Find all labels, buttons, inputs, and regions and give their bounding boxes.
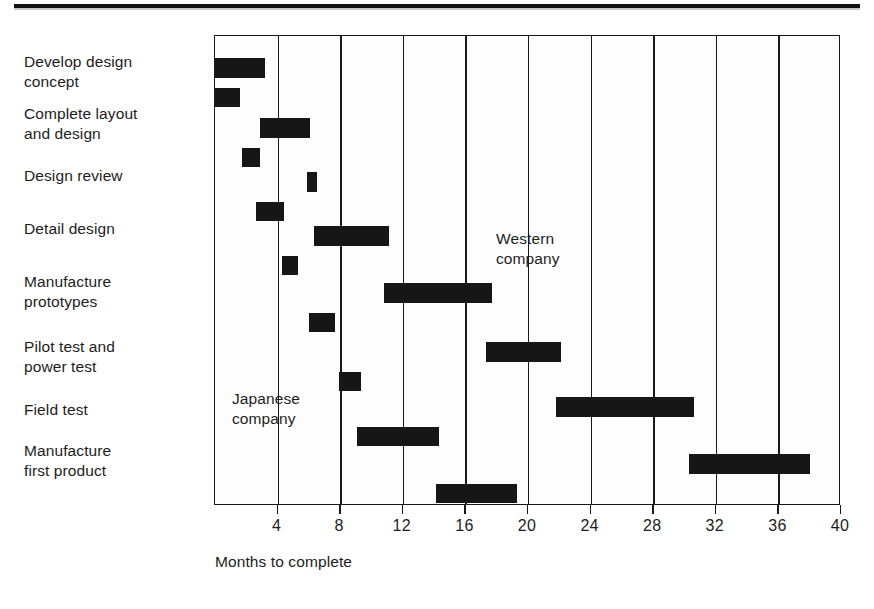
x-tick-mark-36: [777, 505, 778, 514]
row-label-manufacture-prototypes: Manufacture prototypes: [24, 272, 214, 312]
gantt-bar: [556, 397, 694, 417]
x-tick-mark-40: [840, 505, 841, 514]
gridline-month-32: [716, 36, 717, 504]
x-tick-label-32: 32: [695, 517, 735, 535]
x-tick-label-28: 28: [632, 517, 672, 535]
gantt-bar: [256, 202, 284, 221]
x-tick-mark-28: [652, 505, 653, 514]
gantt-bar: [242, 148, 261, 167]
gridline-month-4: [278, 36, 279, 504]
x-axis-title: Months to complete: [215, 553, 352, 571]
gantt-bar: [486, 342, 561, 362]
row-label-detail-design: Detail design: [24, 219, 214, 239]
gridline-month-20: [528, 36, 529, 504]
gantt-bar: [260, 118, 310, 138]
row-label-pilot-test-and-power-test: Pilot test and power test: [24, 337, 214, 377]
gantt-bar: [689, 454, 810, 474]
x-tick-label-4: 4: [257, 517, 297, 535]
gantt-bar: [307, 172, 316, 192]
gantt-chart-plot-area: Western company Japanese company: [214, 35, 840, 505]
row-label-develop-design-concept: Develop design concept: [24, 52, 214, 92]
gridline-month-8: [340, 36, 341, 504]
gantt-bar: [314, 226, 389, 246]
gantt-bar: [384, 283, 492, 303]
row-label-complete-layout-and-design: Complete layout and design: [24, 104, 214, 144]
x-tick-label-8: 8: [319, 517, 359, 535]
row-label-field-test: Field test: [24, 400, 214, 420]
x-tick-mark-8: [339, 505, 340, 514]
gantt-bar: [309, 313, 336, 332]
gantt-bar: [339, 372, 361, 391]
header-rule-shadow: [14, 8, 860, 10]
x-tick-mark-12: [402, 505, 403, 514]
x-tick-mark-16: [464, 505, 465, 514]
gridline-month-28: [653, 36, 654, 504]
x-tick-mark-32: [715, 505, 716, 514]
x-tick-label-36: 36: [757, 517, 797, 535]
gridline-month-24: [591, 36, 592, 504]
gridline-month-16: [465, 36, 466, 504]
x-tick-label-16: 16: [444, 517, 484, 535]
x-tick-mark-24: [590, 505, 591, 514]
x-tick-label-20: 20: [507, 517, 547, 535]
x-tick-label-40: 40: [820, 517, 860, 535]
row-label-design-review: Design review: [24, 166, 214, 186]
gantt-bar: [436, 484, 517, 503]
x-tick-mark-4: [277, 505, 278, 514]
annotation-japanese-company: Japanese company: [232, 389, 300, 429]
gantt-bar: [282, 256, 298, 275]
row-label-manufacture-first-product: Manufacture first product: [24, 441, 214, 481]
x-tick-label-12: 12: [382, 517, 422, 535]
x-tick-label-24: 24: [570, 517, 610, 535]
x-tick-mark-20: [527, 505, 528, 514]
gantt-bar: [357, 427, 438, 446]
gantt-bar: [215, 88, 240, 107]
gantt-bar: [215, 58, 265, 78]
gridline-month-36: [778, 36, 779, 504]
